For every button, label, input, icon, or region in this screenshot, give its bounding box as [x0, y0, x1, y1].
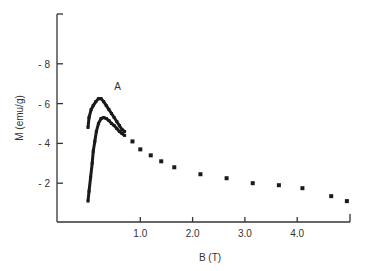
y-tick-label: - 2 — [38, 178, 50, 189]
y-tick-label: - 4 — [38, 138, 50, 149]
annotation-A: A — [114, 81, 121, 92]
x-tick-label: 2.0 — [186, 228, 200, 239]
data-points — [87, 97, 349, 203]
chart: 1.02.03.04.0 - 2- 4- 6- 8 A B (T) M (emu… — [0, 0, 365, 271]
y-axis-label: M (emu/g) — [14, 95, 25, 141]
y-ticks: - 2- 4- 6- 8 — [38, 59, 63, 189]
y-tick-label: - 6 — [38, 99, 50, 110]
x-tick-label: 4.0 — [290, 228, 304, 239]
x-axis-label: B (T) — [199, 252, 221, 263]
x-ticks: 1.02.03.04.0 — [133, 217, 304, 239]
x-tick-label: 1.0 — [133, 228, 147, 239]
x-tick-label: 3.0 — [238, 228, 252, 239]
y-tick-label: - 8 — [38, 59, 50, 70]
